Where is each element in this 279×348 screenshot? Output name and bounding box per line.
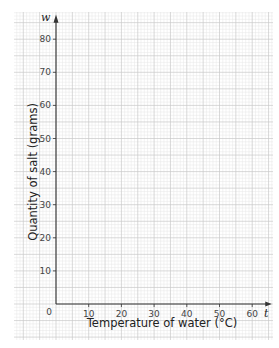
y-tick-label: 40 [40,167,52,177]
minor-grid [14,12,273,340]
y-tick-label: 30 [40,200,52,210]
graph-paper-chart: 1020304050601020304050607080 Temperature… [0,0,279,348]
x-tick-label: 60 [246,309,258,319]
y-variable: w [41,11,51,24]
y-tick-label: 60 [40,100,52,110]
y-tick-label: 10 [40,266,52,276]
x-variable: t [264,307,269,320]
y-tick-label: 20 [40,233,52,243]
y-tick-label: 50 [40,134,52,144]
x-axis-label: Temperature of water (°C) [86,316,237,330]
origin-label: 0 [46,307,52,317]
y-axis-label: Quantity of salt (grams) [26,103,40,241]
y-tick-label: 70 [40,67,52,77]
y-tick-label: 80 [40,34,52,44]
